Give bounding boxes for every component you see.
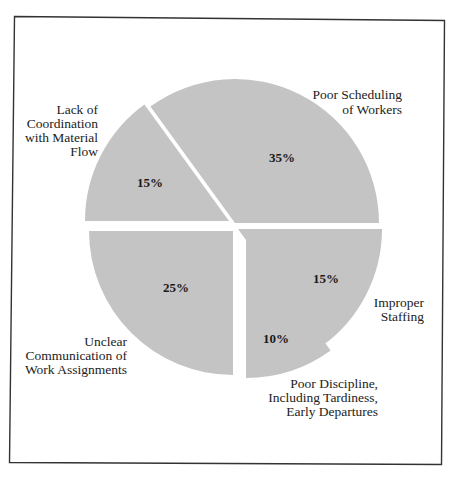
value-poor-discipline: 10% xyxy=(263,331,289,347)
value-poor-scheduling: 35% xyxy=(269,150,295,166)
label-improper-staffing: Improper Staffing xyxy=(374,296,424,324)
label-poor-scheduling: Poor Scheduling of Workers xyxy=(312,87,402,117)
label-lack-coordination: Lack of Coordination with Material Flow xyxy=(25,103,98,159)
label-poor-discipline: Poor Discipline, Including Tardiness, Ea… xyxy=(268,377,378,419)
pie-slices xyxy=(85,79,382,378)
value-improper-staffing: 15% xyxy=(313,271,339,287)
value-unclear-communication: 25% xyxy=(163,280,189,296)
pie-chart xyxy=(0,0,453,477)
value-lack-coordination: 15% xyxy=(137,175,163,191)
label-unclear-communication: Unclear Communication of Work Assignment… xyxy=(25,335,127,377)
